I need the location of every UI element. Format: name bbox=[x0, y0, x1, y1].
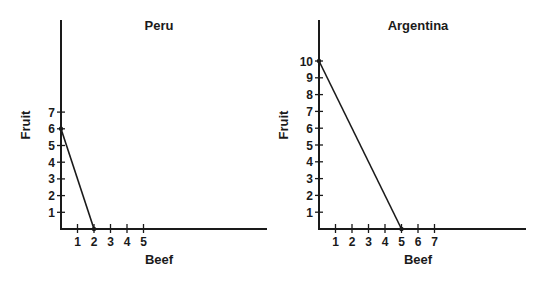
x-tick-label: 3 bbox=[107, 235, 114, 249]
endpoint-marker bbox=[59, 127, 63, 131]
peru-chart: Peru Fruit Beef 1234567 12345 bbox=[18, 18, 267, 267]
ppf-line bbox=[61, 129, 94, 229]
y-tick-label: 3 bbox=[48, 172, 55, 186]
y-tick-label: 2 bbox=[306, 189, 313, 203]
y-tick-label: 4 bbox=[48, 156, 55, 170]
peru-x-axis-label: Beef bbox=[145, 252, 174, 267]
y-tick-label: 9 bbox=[306, 71, 313, 85]
charts-canvas: Peru Fruit Beef 1234567 12345 Argentina … bbox=[0, 0, 541, 282]
y-tick-label: 6 bbox=[48, 122, 55, 136]
x-tick-label: 3 bbox=[365, 235, 372, 249]
peru-axes bbox=[60, 20, 267, 229]
peru-y-ticks: 1234567 bbox=[48, 106, 65, 220]
x-tick-label: 2 bbox=[349, 235, 356, 249]
x-tick-label: 7 bbox=[431, 235, 438, 249]
y-tick-label: 5 bbox=[48, 139, 55, 153]
argentina-chart: Argentina Fruit Beef 12345678910 1234567 bbox=[276, 18, 526, 267]
y-tick-label: 5 bbox=[306, 139, 313, 153]
x-tick-label: 6 bbox=[415, 235, 422, 249]
peru-x-ticks: 12345 bbox=[74, 224, 147, 249]
y-tick-label: 1 bbox=[48, 206, 55, 220]
argentina-chart-title: Argentina bbox=[388, 18, 449, 33]
argentina-x-axis-label: Beef bbox=[404, 252, 433, 267]
endpoint-marker bbox=[317, 59, 321, 63]
peru-y-axis-label: Fruit bbox=[18, 110, 33, 140]
argentina-x-ticks: 1234567 bbox=[332, 224, 438, 249]
x-tick-label: 2 bbox=[91, 235, 98, 249]
y-tick-label: 4 bbox=[306, 155, 313, 169]
y-tick-label: 7 bbox=[48, 106, 55, 120]
y-tick-label: 1 bbox=[306, 206, 313, 220]
x-tick-label: 5 bbox=[140, 235, 147, 249]
y-tick-label: 2 bbox=[48, 189, 55, 203]
argentina-ppf-line bbox=[317, 59, 404, 231]
x-tick-label: 5 bbox=[398, 235, 405, 249]
y-tick-label: 3 bbox=[306, 172, 313, 186]
peru-chart-title: Peru bbox=[145, 18, 174, 33]
x-tick-label: 1 bbox=[74, 235, 81, 249]
argentina-axes bbox=[318, 20, 526, 229]
endpoint-marker bbox=[399, 227, 403, 231]
endpoint-marker bbox=[92, 227, 96, 231]
y-tick-label: 8 bbox=[306, 88, 313, 102]
y-tick-label: 6 bbox=[306, 122, 313, 136]
y-tick-label: 10 bbox=[300, 55, 314, 69]
x-tick-label: 1 bbox=[332, 235, 339, 249]
y-tick-label: 7 bbox=[306, 105, 313, 119]
x-tick-label: 4 bbox=[124, 235, 131, 249]
argentina-y-axis-label: Fruit bbox=[276, 110, 291, 140]
x-tick-label: 4 bbox=[382, 235, 389, 249]
ppf-line bbox=[319, 61, 402, 229]
